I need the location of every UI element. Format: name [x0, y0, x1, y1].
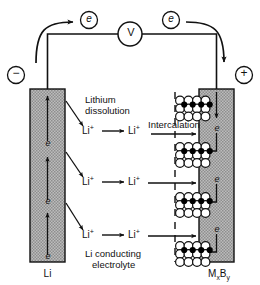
- anode-electron-symbol-2: e: [43, 196, 53, 206]
- diagram-canvas: V e e − + e e e e e e Lithium dissolutio…: [0, 0, 260, 285]
- intercalation-label: Intercalation: [148, 120, 200, 131]
- cathode-electron-symbol-2: e: [212, 174, 222, 184]
- ion-label-left-3: Li+: [82, 228, 94, 241]
- ion-charge: +: [90, 227, 94, 236]
- lithium-dissolution-label-line2: dissolution: [85, 106, 130, 117]
- ion-text: Li: [128, 229, 136, 240]
- ion-transport-arrows: [102, 131, 124, 235]
- ion-text: Li: [128, 176, 136, 187]
- ion-label-left-2: Li+: [82, 175, 94, 188]
- dissolution-arrows: [66, 101, 83, 230]
- cathode-formula-b: B: [220, 268, 227, 279]
- ion-text: Li: [82, 176, 90, 187]
- ion-charge: +: [136, 174, 140, 183]
- cathode-caption: MxBy: [199, 268, 239, 282]
- ion-charge: +: [136, 227, 140, 236]
- negative-terminal-label: −: [10, 67, 22, 80]
- ion-charge: +: [90, 123, 94, 132]
- anode-electron-symbol-1: e: [43, 138, 53, 148]
- ion-label-right-1: Li+: [128, 124, 140, 137]
- lattice-block: [176, 193, 213, 218]
- electron-symbol-external-left: e: [83, 13, 95, 24]
- ion-charge: +: [136, 123, 140, 132]
- electron-flow-arrow-left: [36, 22, 73, 63]
- ion-label-left-1: Li+: [82, 124, 94, 137]
- ion-text: Li: [82, 125, 90, 136]
- ion-text: Li: [82, 229, 90, 240]
- electron-flow-arrow-right: [186, 22, 224, 62]
- diagram-svg: [0, 0, 260, 285]
- anode-caption: Li: [30, 268, 65, 279]
- ion-label-right-2: Li+: [128, 175, 140, 188]
- electrolyte-label-line2: electrolyte: [92, 260, 135, 271]
- voltmeter-label: V: [125, 26, 137, 38]
- ion-charge: +: [90, 174, 94, 183]
- lattice-block: [176, 96, 213, 121]
- electron-symbol-external-right: e: [165, 13, 177, 24]
- cathode-electron-symbol-3: e: [212, 224, 222, 234]
- cathode-formula-y: y: [227, 274, 230, 281]
- cathode-electron-symbol-1: e: [212, 123, 222, 133]
- lattice-block: [176, 242, 213, 267]
- anode-electron-symbol-3: e: [43, 251, 53, 261]
- ion-text: Li: [128, 125, 136, 136]
- ion-label-right-3: Li+: [128, 228, 140, 241]
- positive-terminal-label: +: [238, 67, 250, 80]
- lattice-block: [176, 143, 213, 168]
